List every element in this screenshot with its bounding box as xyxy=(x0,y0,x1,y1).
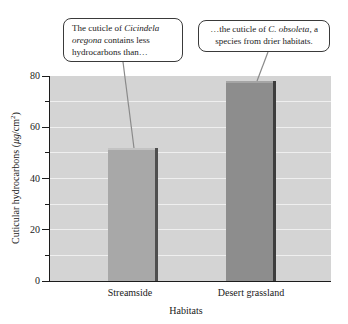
callout-left-text: The cuticle of xyxy=(72,23,124,33)
y-tick-label-60: 60 xyxy=(20,122,40,132)
y-tick-label-0: 0 xyxy=(20,276,40,286)
plot-area: 020406080 xyxy=(50,76,331,281)
y-minor-tick-10 xyxy=(45,255,49,256)
gridline-30 xyxy=(50,204,331,205)
y-minor-tick-70 xyxy=(45,101,49,102)
y-tick-40 xyxy=(42,178,49,179)
bar-chart-figure: 020406080 Cuticular hydrocarbons (μg/cm2… xyxy=(0,0,348,324)
gridline-10 xyxy=(50,255,331,256)
y-tick-label-80: 80 xyxy=(20,71,40,81)
y-tick-80 xyxy=(42,76,49,77)
bar-streamside xyxy=(108,148,158,281)
x-axis-line xyxy=(49,281,331,282)
y-tick-20 xyxy=(42,229,49,230)
gridline-20 xyxy=(50,229,331,230)
category-label-desert-grassland: Desert grassland xyxy=(191,287,311,298)
y-minor-tick-30 xyxy=(45,204,49,205)
category-label-streamside: Streamside xyxy=(80,287,180,298)
y-tick-60 xyxy=(42,127,49,128)
y-tick-label-40: 40 xyxy=(20,174,40,184)
x-axis-title: Habitats xyxy=(136,305,236,316)
bar-desert-grassland xyxy=(226,81,276,281)
gridline-40 xyxy=(50,178,331,179)
y-axis-line xyxy=(49,76,50,282)
y-tick-label-20: 20 xyxy=(20,225,40,235)
gridline-60 xyxy=(50,127,331,128)
y-axis-title: Cuticular hydrocarbons (μg/cm2) xyxy=(6,68,20,288)
callout-right-species: C. obsoleta xyxy=(268,24,309,34)
gridline-50 xyxy=(50,152,331,153)
y-tick-0 xyxy=(42,281,49,282)
y-minor-tick-50 xyxy=(45,152,49,153)
callout-desert-grassland: …the cuticle of C. obsoleta, a species f… xyxy=(198,20,330,52)
callout-right-text: …the cuticle of xyxy=(210,24,268,34)
gridline-70 xyxy=(50,101,331,102)
callout-streamside: The cuticle of Cicindela oregona contain… xyxy=(63,18,183,62)
